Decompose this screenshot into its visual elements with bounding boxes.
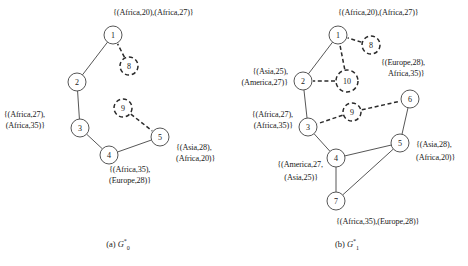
node-label-4: 4 — [334, 154, 338, 163]
node-label-1: 1 — [336, 31, 340, 40]
node-circle-2 — [294, 72, 312, 90]
node-circle-1 — [104, 26, 122, 44]
panel-a-graph: 1234589 — [68, 26, 169, 164]
node-circle-8 — [362, 36, 380, 54]
node-circle-7 — [327, 192, 345, 210]
node-label-3: 3 — [306, 123, 310, 132]
panel-a-caption: (a) G*0 — [106, 238, 130, 251]
node-dashed-9: 9 — [343, 103, 361, 121]
panel-b-annotation: (America,27)} — [0, 78, 288, 89]
caption-superscript: * — [124, 238, 127, 244]
panel-b-annotation: Africa,35)} — [388, 69, 425, 80]
node-circle-5 — [391, 134, 409, 152]
panel-b-annotation: {(Africa,27), — [0, 110, 293, 121]
caption-superscript: * — [353, 238, 356, 244]
node-circle-1 — [329, 26, 347, 44]
caption-subscript: 1 — [356, 245, 359, 251]
graph-drawing: 123458912345678910 — [0, 0, 468, 266]
edge-solid-4-5 — [118, 140, 151, 152]
edge-solid-1-2 — [309, 43, 332, 74]
edge-solid-3-4 — [87, 134, 102, 148]
panel-b-annotation: {(America,27, — [0, 160, 323, 171]
edge-dashed-9-3 — [317, 115, 342, 124]
edge-dashed-8-1 — [118, 44, 125, 57]
node-label-10: 10 — [343, 77, 351, 86]
edge-solid-5-6 — [402, 108, 408, 133]
panel-a-annotation: {(Asia,28), — [176, 143, 212, 154]
edge-solid-7-5 — [343, 149, 393, 194]
node-label-4: 4 — [107, 151, 111, 160]
panel-b-annotation: (Africa,20)} — [416, 153, 455, 164]
node-6: 6 — [401, 90, 419, 108]
edge-dashed-8-1 — [348, 38, 362, 42]
node-5: 5 — [391, 134, 409, 152]
edge-dashed-10-1 — [340, 45, 345, 69]
figure-container: 123458912345678910 {(Africa,20),(Africa,… — [0, 0, 468, 266]
node-label-1: 1 — [111, 31, 115, 40]
edge-dashed-9-6 — [362, 101, 400, 110]
node-label-5: 5 — [398, 139, 402, 148]
node-label-6: 6 — [408, 95, 412, 104]
panel-b-annotation: (Asia,25)} — [0, 173, 318, 184]
node-label-5: 5 — [158, 133, 162, 142]
node-1: 1 — [104, 26, 122, 44]
edge-solid-4-5 — [345, 145, 391, 156]
node-label-7: 7 — [334, 197, 338, 206]
node-label-2: 2 — [301, 77, 305, 86]
panel-b-annotation: {(Asia,28), — [416, 140, 452, 151]
caption-prefix: (b) — [335, 239, 347, 249]
node-label-8: 8 — [369, 41, 373, 50]
panel-b-annotation: {(Asia,25), — [0, 67, 288, 78]
caption-subscript: 0 — [127, 245, 130, 251]
node-7: 7 — [327, 192, 345, 210]
node-dashed-8: 8 — [362, 36, 380, 54]
node-4: 4 — [327, 149, 345, 167]
edge-solid-2-3 — [304, 90, 307, 117]
edge-solid-3-4 — [314, 134, 329, 151]
node-1: 1 — [329, 26, 347, 44]
node-circle-6 — [401, 90, 419, 108]
panel-b-annotation: (Africa,35)} — [0, 121, 293, 132]
node-dashed-10: 10 — [336, 70, 358, 92]
node-3: 3 — [299, 118, 317, 136]
panel-b-annotation: {(Europe,28), — [381, 58, 425, 69]
panel-b-caption: (b) G*1 — [335, 238, 359, 251]
node-circle-10 — [336, 70, 358, 92]
node-2: 2 — [294, 72, 312, 90]
node-circle-3 — [299, 118, 317, 136]
node-circle-9 — [343, 103, 361, 121]
node-circle-4 — [327, 149, 345, 167]
node-label-9: 9 — [350, 108, 354, 117]
caption-prefix: (a) — [106, 239, 118, 249]
